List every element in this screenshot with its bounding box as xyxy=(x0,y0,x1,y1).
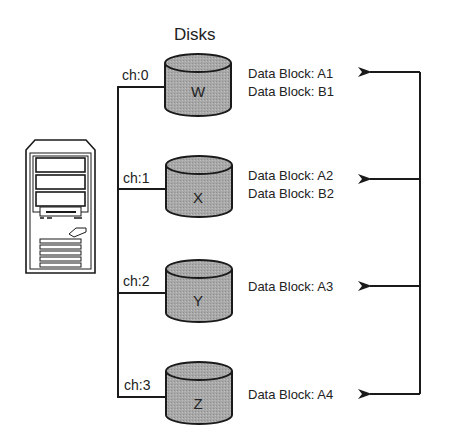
diagram-title: Disks xyxy=(174,25,216,44)
disk-x: X xyxy=(166,156,232,217)
disk-w: W xyxy=(165,54,231,116)
disk-striping-diagram: Disks W ch:0 Data Block: A1 xyxy=(0,0,451,447)
data-flow-arrows xyxy=(370,72,420,394)
data-block-label: Data Block: A4 xyxy=(248,387,333,402)
channel-label: ch:2 xyxy=(123,273,150,289)
disk-label: X xyxy=(193,189,203,206)
disk-z: Z xyxy=(166,362,232,424)
channel-bus xyxy=(118,87,165,397)
data-block-label: Data Block: A3 xyxy=(248,279,333,294)
disk-label: W xyxy=(191,83,206,100)
server-tower-icon xyxy=(26,140,95,273)
disk-label: Z xyxy=(193,395,202,412)
disk-y: Y xyxy=(166,260,232,322)
channel-label: ch:0 xyxy=(122,67,149,83)
data-block-label: Data Block: B1 xyxy=(248,84,334,99)
data-block-label: Data Block: A1 xyxy=(248,66,333,81)
data-block-label: Data Block: A2 xyxy=(248,168,333,183)
channel-label: ch:3 xyxy=(124,377,151,393)
channel-label: ch:1 xyxy=(123,170,150,186)
disk-label: Y xyxy=(193,292,203,309)
data-block-label: Data Block: B2 xyxy=(248,186,334,201)
